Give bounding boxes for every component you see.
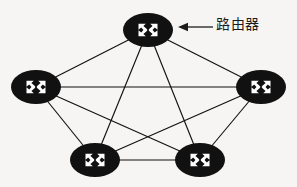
network-topology-figure: 路由器	[0, 0, 297, 187]
router-bottom-right[interactable]	[175, 143, 225, 177]
router-top-body	[123, 13, 173, 47]
router-bottom-left-body	[70, 143, 120, 177]
router-right-body	[236, 70, 286, 104]
router-right[interactable]	[236, 70, 286, 104]
router-top[interactable]	[123, 13, 173, 47]
arrow-head-icon	[178, 23, 188, 31]
router-bottom-left[interactable]	[70, 143, 120, 177]
router-bottom-right-body	[175, 143, 225, 177]
router-left-body	[11, 70, 61, 104]
router-left[interactable]	[11, 70, 61, 104]
links-layer	[36, 30, 261, 160]
annotation-label: 路由器	[216, 16, 260, 32]
annotation-arrow	[178, 23, 213, 31]
nodes-layer	[11, 13, 286, 177]
